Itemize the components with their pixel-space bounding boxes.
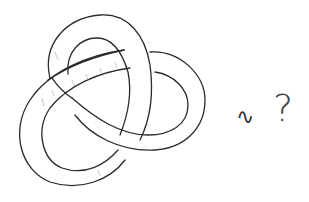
knot-diagram: ∿ ? <box>0 0 309 202</box>
question-mark: ? <box>273 86 293 130</box>
similarity-symbol: ∿ <box>236 104 254 129</box>
ribbon-knot-drawing <box>0 0 309 202</box>
